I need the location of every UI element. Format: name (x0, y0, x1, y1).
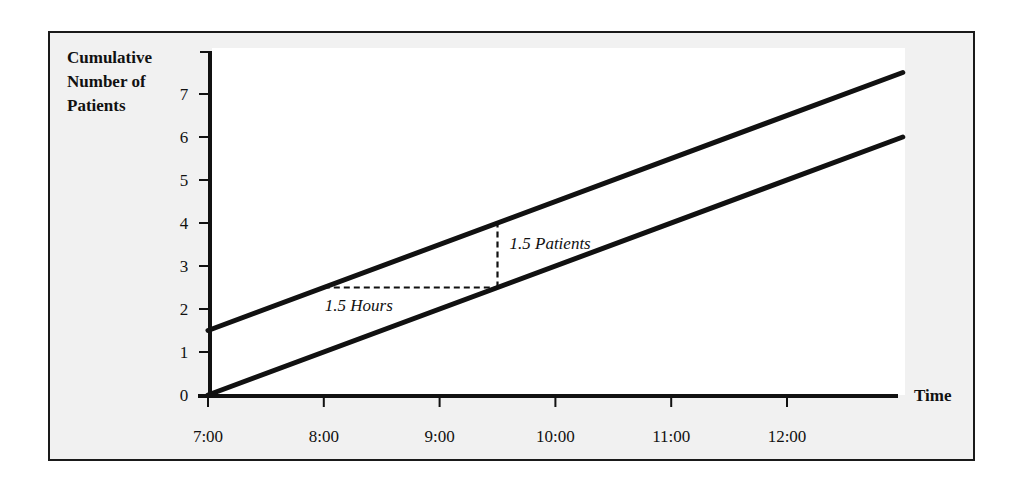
x-tick-label: 10:00 (536, 427, 575, 446)
x-tick-label: 7:00 (193, 427, 223, 446)
y-tick-label: 1 (180, 343, 189, 362)
x-tick-label: 8:00 (309, 427, 339, 446)
y-axis-label-line-2: Number of (67, 72, 146, 91)
y-tick-label: 3 (180, 257, 189, 276)
y-axis-label-line-1: Cumulative (67, 48, 152, 67)
y-tick-label: 0 (180, 386, 189, 405)
y-tick-label: 7 (180, 85, 189, 104)
y-axis-label-line-3: Patients (67, 96, 126, 115)
patients-annotation: 1.5 Patients (510, 234, 592, 253)
y-tick-label: 5 (180, 171, 189, 190)
x-tick-label: 12:00 (768, 427, 807, 446)
cumulative-patients-chart: Cumulative Number of Patients Time 01234… (0, 0, 1010, 483)
y-tick-label: 4 (180, 214, 189, 233)
plot-area (212, 48, 905, 395)
hours-annotation: 1.5 Hours (325, 296, 393, 315)
y-tick-label: 2 (180, 300, 189, 319)
x-tick-label: 9:00 (424, 427, 454, 446)
x-axis-label: Time (914, 386, 952, 405)
y-tick-label: 6 (180, 128, 189, 147)
x-tick-label: 11:00 (652, 427, 690, 446)
